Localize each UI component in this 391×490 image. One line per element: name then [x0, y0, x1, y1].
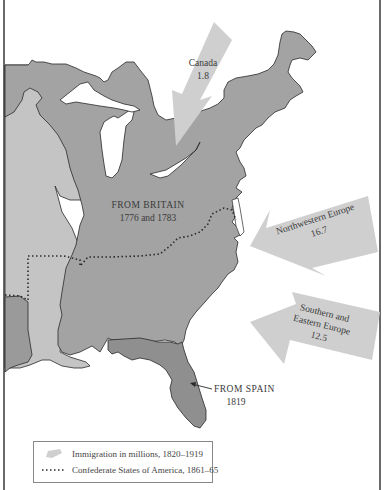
region-date-spain: 1819 [227, 397, 246, 407]
arrow-southern-eastern-europe: Southern and Eastern Europe 12.5 [250, 292, 380, 364]
arrow-northwestern-europe: Northwestern Europe 16.7 [250, 196, 378, 276]
legend-item-confederate: Confederate States of America, 1861–65 [34, 463, 218, 477]
region-date-britain: 1776 and 1783 [120, 213, 177, 223]
texas-region [5, 296, 32, 372]
dotted-line-swatch-icon [40, 464, 68, 476]
legend-label-immigration: Immigration in millions, 1820–1919 [72, 449, 203, 459]
arrow-canada-origin: Canada [189, 58, 218, 68]
region-label-britain: FROM BRITAIN [111, 200, 184, 210]
map-legend: Immigration in millions, 1820–1919 Confe… [33, 441, 213, 483]
legend-label-confederate: Confederate States of America, 1861–65 [72, 465, 218, 475]
map-canvas: Canada 1.8 Northwestern Europe 16.7 Sout… [0, 0, 391, 490]
region-label-spain: FROM SPAIN [214, 384, 275, 394]
gray-arrow-swatch-icon [40, 448, 68, 460]
legend-item-immigration: Immigration in millions, 1820–1919 [34, 447, 203, 461]
arrow-canada-value: 1.8 [197, 71, 209, 81]
